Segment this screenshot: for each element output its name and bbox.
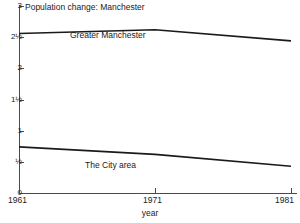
series-label-greater-manchester: Greater Manchester [70,30,146,40]
series-label-city-area: The City area [85,160,136,170]
chart-title: Population change: Manchester [25,2,145,12]
chart-figure: 3 2½ 2 1½ 1 ½ 0 1961 1971 1981 Populatio… [0,0,300,223]
scan-artifact [0,219,300,223]
series-line-greater-manchester [19,30,291,41]
plot-area [0,0,300,223]
series-line-city-area [19,147,291,166]
x-axis-title: year [0,208,300,218]
series-canvas [0,0,300,223]
